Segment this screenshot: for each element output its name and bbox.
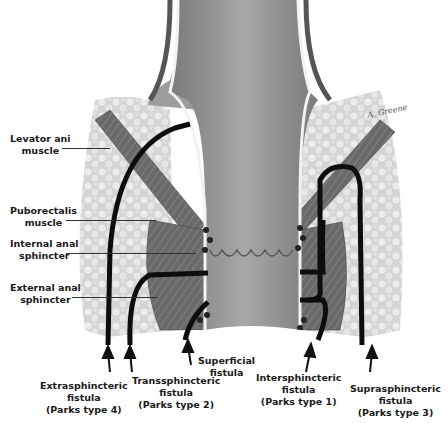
label-transsphincteric-fistula: Transsphincteric fistula (Parks type 2): [132, 375, 220, 411]
label-levator-ani: Levator ani muscle: [10, 133, 71, 157]
label-external-anal-sphincter: External anal sphincter: [10, 282, 81, 306]
label-intersphincteric-fistula: Intersphincteric fistula (Parks type 1): [256, 372, 341, 408]
label-internal-anal-sphincter: Internal anal sphincter: [10, 238, 79, 262]
leader-internal-sphincter: [66, 253, 196, 254]
label-puborectalis: Puborectalis muscle: [10, 205, 77, 229]
label-suprasphincteric-fistula: Suprasphincteric fistula (Parks type 3): [350, 383, 441, 419]
label-superficial-fistula: Superficial fistula: [198, 355, 255, 379]
label-extrasphincteric-fistula: Extrasphincteric fistula (Parks type 4): [40, 380, 128, 416]
leader-external-sphincter: [72, 297, 158, 298]
leader-puborectalis: [66, 220, 156, 221]
